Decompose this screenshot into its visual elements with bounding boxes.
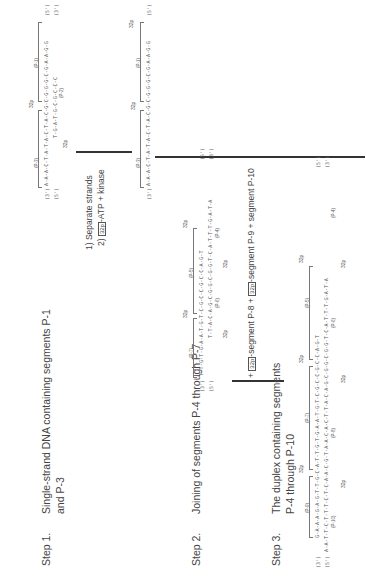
segment-label: (P-10) [331,515,336,528]
step1-text-line2: and P-3 [54,477,66,514]
end-label: (5') [315,156,321,168]
end-label: (5') [208,380,214,392]
label-32p: 32p [28,100,34,108]
segment-brace [38,110,42,188]
label-32p: 32p [128,20,134,28]
top-strand: T-T-G-T-G-A-A-T-G-T-C-G-C-C-G-C-C-A-G-T [198,250,204,376]
end-label: (3') [324,156,330,168]
segment-label: (P-4) [215,228,220,238]
segment-brace [193,318,197,378]
end-label: (3') [315,556,321,568]
end-label: (5') [44,4,50,16]
label-32p: 32p [182,310,188,318]
label-32p: 32p [222,330,228,338]
step3-caption: Step 3.The duplex containing segments [270,363,282,566]
label-32p: 32p [130,102,136,110]
end-label: (3') [199,380,205,392]
end-label: (3') [44,188,50,200]
bottom-strand: A-A-T-T-C-T-T-T-C-T-C-A-A-C-G-T-A-A-C-A-… [323,278,329,552]
segment-brace [193,228,197,314]
bottom-strand: T-G-A-T-G-C-G-C-C-C [52,77,58,138]
step3-label: Step 3. [270,514,282,566]
end-label: (5') [146,4,152,16]
reagent-text: -ATP + kinase [96,169,106,222]
segment-brace [309,476,313,538]
step1-caption: Step 1.Single-strand DNA containing segm… [40,309,52,566]
segment-label: (P-6) [331,318,336,328]
segment-brace [140,110,144,188]
strand: A-A-A-C-T-A-T-A-C-T-A-C-G-C-G-G-G-C-G-A-… [145,41,151,186]
segment-label: (P-2) [59,88,64,98]
segment-brace [140,22,144,102]
reagent-step-number: 2) [96,238,106,246]
top-strand: G-A-A-A-G-A-G-T-T-G-C-A-T-T-G-T-G-A-A-T-… [314,335,320,538]
label-32p: 32p [340,260,346,268]
step3-duplex: 32p 32p 32p (P-9) (P-7) (P-5) (3') G-A-A… [298,158,358,568]
top-strand: A-A-A-C-T-A-T-A-C-T-A-C-G-C-G-G-G-C-G-A-… [43,41,49,186]
step1-product: 32p 32p (P-3) (P-1) (3') A-A-A-C-T-A-T-A… [130,8,160,188]
label-32p: 32p [340,480,346,488]
label-32p: 32p [62,140,68,148]
isotope-box: 32p [248,282,256,296]
label-32p: 32p [298,255,304,263]
reagent-text: -segment P-9 + segment P-10 [246,168,256,282]
end-label: (5') [324,556,330,568]
step1-label: Step 1. [40,514,52,566]
label-32p: 32p [340,375,346,383]
reagent-text: -segment P-8 + [246,298,256,356]
figure-canvas: Step 1.Single-strand DNA containing segm… [0,0,366,578]
reagent-line1: 1) Separate strands [84,175,94,250]
segment-label: (P-8) [331,428,336,438]
segment-label: (P-4) [331,208,336,218]
segment-brace [309,266,313,360]
step2-label: Step 2. [190,514,202,566]
end-label: (3') [208,148,214,160]
label-32p: 32p [298,465,304,473]
plus-sign: + [246,373,256,378]
segment-brace [309,366,313,470]
down-arrow-icon [76,152,132,154]
step1-text-line1: Single-strand DNA containing segments P-… [40,309,52,514]
end-label: (3') [146,188,152,200]
segment-brace [38,22,42,102]
label-32p: 32p [182,220,188,228]
step2-duplex: 32p 32p (P-7) (P-5) (3') T-T-G-T-G-A-A-T… [182,158,232,378]
step1-duplex: 32p (P-3) (P-1) (3') A-A-A-C-T-A-T-A-C-T… [28,8,68,188]
reagent-line2: 2) 32p-ATP + kinase [96,169,106,246]
step3-text-line2: P-4 through P-10 [284,434,296,514]
end-label: (5') [199,148,205,160]
bottom-strand: T-T-A-C-A-G-C-G-G-C-G-G-T-C-A-T-T-T-G-A-… [207,199,213,338]
isotope-box: 32p [98,222,106,236]
isotope-box: 32p [248,357,256,371]
step3-text-line1: The duplex containing segments [270,363,282,514]
step2-reagent: + 32p-segment P-8 + 32p-segment P-9 + se… [246,168,256,378]
label-32p: 32p [222,260,228,268]
end-label: (5') [53,188,59,200]
label-32p: 32p [298,355,304,363]
end-label: (3') [53,4,59,16]
segment-label: (P-6) [215,298,220,308]
